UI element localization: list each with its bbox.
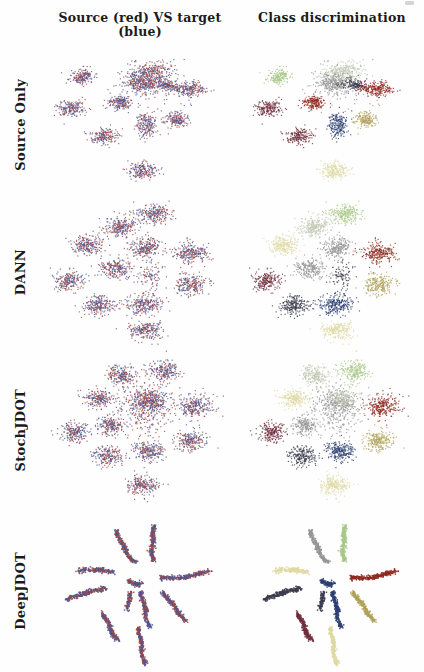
- row-label-col: StochJDOT: [0, 350, 40, 510]
- scatter-source-only-class: [240, 55, 424, 195]
- row-label-col: DeepJDOT: [0, 510, 40, 672]
- scatter-deepjdot-class: [240, 510, 424, 672]
- row-deepjdot: DeepJDOT: [0, 510, 424, 672]
- row-label-col: Source Only: [0, 55, 40, 195]
- row-label-dann: DANN: [13, 249, 28, 295]
- page-artifact: [405, 1, 414, 5]
- row-source-only: Source Only: [0, 55, 424, 195]
- scatter-source-only-domain: [40, 55, 240, 195]
- scatter-dann-class: [240, 195, 424, 350]
- column-title-domain: Source (red) VS target (blue): [40, 11, 240, 39]
- row-dann: DANN: [0, 195, 424, 350]
- column-title-class: Class discrimination: [240, 11, 424, 25]
- scatter-deepjdot-domain: [40, 510, 240, 672]
- row-label-deepjdot: DeepJDOT: [13, 552, 28, 630]
- scatter-dann-domain: [40, 195, 240, 350]
- scatter-stochjdot-class: [240, 350, 424, 510]
- row-label-col: DANN: [0, 195, 40, 350]
- scatter-stochjdot-domain: [40, 350, 240, 510]
- figure-header: Source (red) VS target (blue) Class disc…: [0, 0, 424, 55]
- row-label-source-only: Source Only: [13, 79, 28, 171]
- figure-page: Source (red) VS target (blue) Class disc…: [0, 0, 424, 672]
- row-stochjdot: StochJDOT: [0, 350, 424, 510]
- row-label-stochjdot: StochJDOT: [13, 389, 28, 472]
